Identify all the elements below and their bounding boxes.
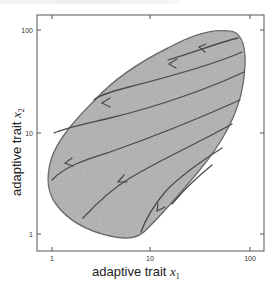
phase-plot: 100 10 1 1 10 100 adaptive trait x1 adap… <box>0 0 277 289</box>
x-tick-label-10: 10 <box>146 255 154 262</box>
x-axis-label: adaptive trait x1 <box>92 264 180 281</box>
y-tick-label-100: 100 <box>21 27 33 34</box>
y-tick-label-10: 10 <box>25 130 33 137</box>
x-tick-label-100: 100 <box>244 255 256 262</box>
y-axis-label: adaptive trait x2 <box>9 108 26 196</box>
y-tick-label-1: 1 <box>29 231 33 238</box>
x-tick-label-1: 1 <box>50 255 54 262</box>
